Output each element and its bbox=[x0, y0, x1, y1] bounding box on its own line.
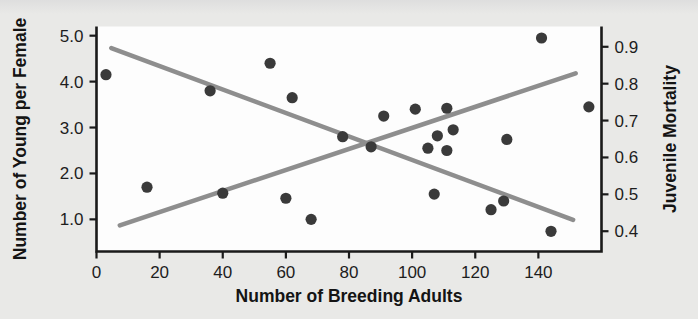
data-point bbox=[205, 85, 216, 96]
x-axis-tick-label: 60 bbox=[276, 263, 295, 282]
y-axis-title: Number of Young per Female bbox=[10, 18, 30, 261]
y-axis-tick-label: 2.0 bbox=[60, 164, 84, 183]
data-point bbox=[441, 145, 452, 156]
data-point bbox=[485, 204, 496, 215]
x-axis-tick-label: 100 bbox=[398, 263, 426, 282]
data-point bbox=[441, 103, 452, 114]
data-point bbox=[422, 143, 433, 154]
data-point bbox=[264, 58, 275, 69]
data-point bbox=[501, 134, 512, 145]
data-point bbox=[432, 130, 443, 141]
data-point bbox=[280, 193, 291, 204]
x-axis-tick-label: 80 bbox=[340, 263, 359, 282]
plot-area-background bbox=[97, 27, 602, 252]
data-point bbox=[545, 226, 556, 237]
scatter-plot: 0204060801001201401.02.03.04.05.00.40.50… bbox=[0, 0, 698, 319]
y-axis-tick-label: 1.0 bbox=[60, 210, 84, 229]
data-point bbox=[498, 195, 509, 206]
y2-axis-title: Juvenile Mortality bbox=[660, 65, 680, 213]
x-axis-tick-label: 20 bbox=[150, 263, 169, 282]
data-point bbox=[536, 32, 547, 43]
y-axis-tick-label: 5.0 bbox=[60, 27, 84, 46]
data-point bbox=[448, 124, 459, 135]
data-point bbox=[365, 141, 376, 152]
y2-axis-tick-label: 0.6 bbox=[615, 148, 639, 167]
data-point bbox=[583, 101, 594, 112]
x-axis-tick-label: 0 bbox=[92, 263, 101, 282]
data-point bbox=[337, 131, 348, 142]
data-point bbox=[141, 182, 152, 193]
data-point bbox=[306, 214, 317, 225]
data-point bbox=[217, 188, 228, 199]
y-axis-tick-label: 3.0 bbox=[60, 119, 84, 138]
y2-axis-tick-label: 0.7 bbox=[615, 112, 639, 131]
x-axis-tick-label: 40 bbox=[213, 263, 232, 282]
x-axis-tick-label: 140 bbox=[524, 263, 552, 282]
data-point bbox=[287, 92, 298, 103]
y2-axis-tick-label: 0.4 bbox=[615, 222, 639, 241]
figure-panel: 0204060801001201401.02.03.04.05.00.40.50… bbox=[0, 0, 698, 319]
x-axis-title: Number of Breeding Adults bbox=[236, 286, 463, 306]
x-axis-tick-label: 120 bbox=[461, 263, 489, 282]
y2-axis-tick-label: 0.8 bbox=[615, 75, 639, 94]
y2-axis-tick-label: 0.5 bbox=[615, 185, 639, 204]
y-axis-tick-label: 4.0 bbox=[60, 73, 84, 92]
data-point bbox=[378, 110, 389, 121]
data-point bbox=[429, 189, 440, 200]
data-point bbox=[410, 104, 421, 115]
data-point bbox=[100, 69, 111, 80]
y2-axis-tick-label: 0.9 bbox=[615, 38, 639, 57]
